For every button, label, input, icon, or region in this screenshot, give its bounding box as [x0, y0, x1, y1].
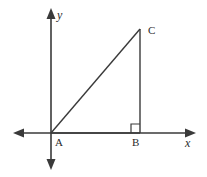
right-angle-marker-icon	[131, 124, 140, 133]
y-axis-label: y	[57, 9, 62, 21]
x-axis-label: x	[185, 137, 190, 149]
triangle-ABC	[51, 29, 140, 133]
geometry-figure: y x A B C	[0, 0, 207, 177]
y-axis-arrow-down-icon	[47, 159, 56, 170]
vertex-label-B: B	[132, 137, 139, 148]
x-axis-arrow-left-icon	[13, 129, 24, 138]
figure-canvas	[0, 0, 207, 177]
vertex-label-A: A	[55, 137, 63, 148]
vertex-label-C: C	[148, 25, 155, 36]
y-axis-arrow-up-icon	[47, 8, 56, 19]
triangle-side-AC	[51, 29, 140, 133]
